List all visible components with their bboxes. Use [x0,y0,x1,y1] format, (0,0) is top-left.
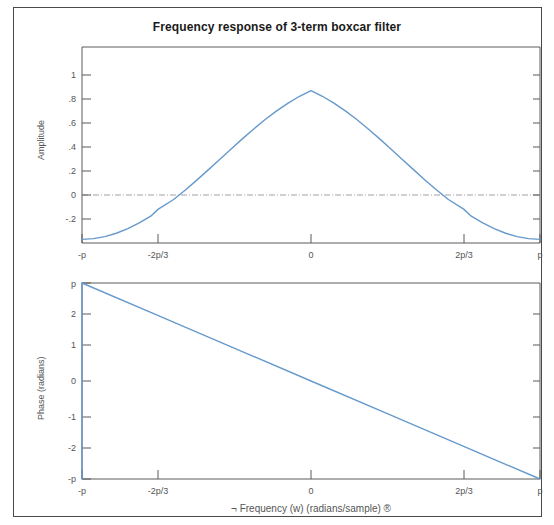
amplitude-ytick-label-3: .4 [68,142,76,152]
phase-ytick-label-3: 0 [71,376,76,386]
amplitude-ytick-label-1: .8 [68,94,76,104]
phase-xtick-label-4: p [537,486,542,496]
amplitude-xtick-label-0: -p [78,250,86,260]
phase-ytick-label-0: p [71,279,76,289]
phase-ytick-label-2: 1 [71,340,76,350]
phase-x-ticks [82,470,540,479]
amplitude-xtick-label-1: -2p/3 [148,250,169,260]
phase-y-ticks-right [533,314,540,448]
phase-ytick-label-5: -2 [68,443,76,453]
amplitude-response-curve [82,91,540,240]
phase-ytick-label-6: -p [68,474,76,484]
amplitude-ytick-label-4: .2 [68,166,76,176]
plots-svg: 1 .8 .6 .4 .2 0 -.2 Amplitude -p -2p/3 0… [0,0,554,525]
phase-ytick-label-4: -1 [68,412,76,422]
phase-response-curve [82,283,540,479]
phase-ytick-label-1: 2 [71,309,76,319]
phase-xtick-label-0: -p [78,486,86,496]
amplitude-x-ticks [82,234,540,243]
phase-xtick-label-2: 0 [308,486,313,496]
amplitude-ytick-label-0: 1 [71,70,76,80]
amplitude-xtick-label-4: p [537,250,542,260]
amplitude-ytick-label-6: -.2 [65,214,76,224]
phase-xtick-label-1: -2p/3 [148,486,169,496]
amplitude-y-axis-title: Amplitude [36,120,46,160]
amplitude-ytick-label-2: .6 [68,118,76,128]
amplitude-ytick-label-5: 0 [71,190,76,200]
amplitude-xtick-label-2: 0 [308,250,313,260]
amplitude-plot-frame [82,47,540,243]
amplitude-y-ticks [82,75,91,219]
phase-y-axis-title: Phase (radians) [36,356,46,420]
phase-xtick-label-3: 2p/3 [455,486,473,496]
figure-container: Frequency response of 3-term boxcar filt… [0,0,554,525]
amplitude-plot: 1 .8 .6 .4 .2 0 -.2 Amplitude -p -2p/3 0… [36,47,543,260]
phase-plot: p 2 1 0 -1 -2 -p Phase (radians) -p -2p/… [36,279,543,514]
amplitude-xtick-label-3: 2p/3 [455,250,473,260]
amplitude-y-ticks-right [533,75,540,219]
phase-y-ticks [82,283,91,479]
phase-x-axis-title: ¬ Frequency (w) (radians/sample) ® [231,503,392,514]
